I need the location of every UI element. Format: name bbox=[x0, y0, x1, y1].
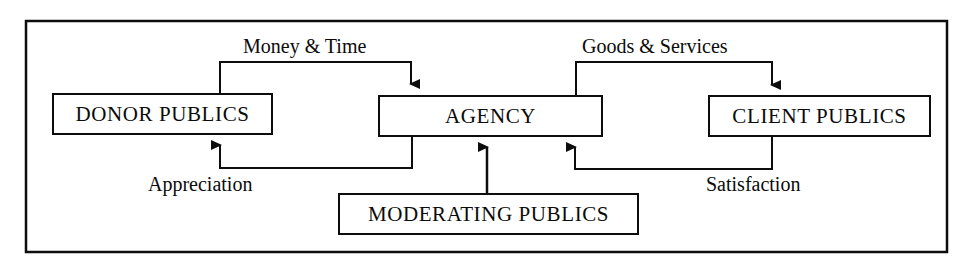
node-client-publics[interactable]: CLIENT PUBLICS bbox=[708, 95, 931, 137]
edge-label-appreciation: Appreciation bbox=[148, 174, 252, 194]
node-agency-label: AGENCY bbox=[445, 106, 536, 127]
node-agency[interactable]: AGENCY bbox=[378, 95, 603, 137]
edge-label-goods-services: Goods & Services bbox=[582, 36, 728, 56]
edge-satisfaction-path bbox=[575, 137, 772, 169]
diagram-canvas: DONOR PUBLICS AGENCY CLIENT PUBLICS MODE… bbox=[0, 0, 974, 274]
edge-money-time-path bbox=[220, 62, 411, 93]
edge-label-money-time: Money & Time bbox=[243, 36, 366, 56]
node-donor-publics-label: DONOR PUBLICS bbox=[75, 104, 249, 125]
edge-appreciation-path bbox=[220, 137, 412, 168]
node-moderating-publics-label: MODERATING PUBLICS bbox=[368, 204, 609, 225]
node-client-publics-label: CLIENT PUBLICS bbox=[732, 106, 906, 127]
edge-label-satisfaction: Satisfaction bbox=[706, 174, 800, 194]
node-donor-publics[interactable]: DONOR PUBLICS bbox=[52, 93, 273, 135]
node-moderating-publics[interactable]: MODERATING PUBLICS bbox=[338, 193, 639, 235]
edge-goods-services-path bbox=[576, 62, 772, 95]
